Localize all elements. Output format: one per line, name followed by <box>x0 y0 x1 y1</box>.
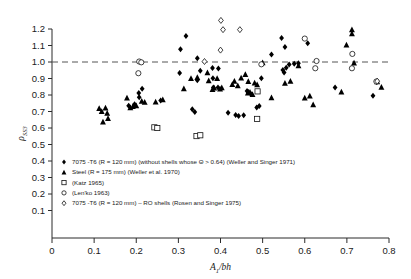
data-point <box>255 89 260 94</box>
data-point <box>237 27 242 33</box>
data-point <box>287 78 293 84</box>
data-point <box>136 71 141 76</box>
scatter-plot-figure: 0.10.20.30.40.50.60.70.80.91.01.11.200.1… <box>0 0 411 279</box>
y-axis-tick-label: 1.1 <box>32 40 45 51</box>
legend-marker-filled-diamond <box>62 160 66 165</box>
y-axis-tick-label: 0.5 <box>32 139 45 150</box>
data-point <box>242 71 248 77</box>
data-point <box>198 68 203 74</box>
legend-label: 7075 -T6 (R = 120 mm) (without shells wh… <box>72 158 295 165</box>
data-point <box>344 42 350 48</box>
data-point <box>195 55 200 61</box>
y-axis-tick-label: 0.8 <box>32 89 45 100</box>
data-series-0 <box>126 33 379 119</box>
data-point <box>313 66 318 71</box>
data-point <box>124 95 130 101</box>
data-point <box>202 59 207 65</box>
svg-text:ρSS3: ρSS3 <box>16 126 28 142</box>
x-axis-title: A1/bh <box>209 262 231 274</box>
x-axis-tick-label: 0.6 <box>298 245 311 256</box>
y-axis-tick-label: 0.1 <box>32 205 45 216</box>
data-point <box>349 26 355 32</box>
data-point <box>103 105 109 111</box>
data-point <box>198 133 203 138</box>
chart-canvas: 0.10.20.30.40.50.60.70.80.91.01.11.200.1… <box>0 0 411 279</box>
y-axis-tick-label: 0.2 <box>32 188 45 199</box>
data-point <box>255 116 260 121</box>
x-axis-tick-label: 0.1 <box>88 245 101 256</box>
data-point <box>314 58 319 63</box>
x-axis-tick-label: 0.7 <box>340 245 353 256</box>
data-point <box>259 75 264 81</box>
y-axis-tick-label: 1.0 <box>32 56 45 67</box>
data-point <box>104 110 110 116</box>
legend-marker-filled-triangle <box>62 170 67 175</box>
y-axis-tick-label: 0.6 <box>32 122 45 133</box>
data-point <box>371 93 376 99</box>
data-point <box>349 66 354 71</box>
data-point <box>269 52 274 58</box>
data-series-4 <box>202 17 380 84</box>
legend-label: (Katz 1965) <box>72 179 104 186</box>
data-point <box>351 60 357 66</box>
legend-label: Steel (R = 175 mm) (Weller et al. 1970) <box>72 168 180 175</box>
data-point <box>269 95 275 101</box>
data-point <box>100 119 106 125</box>
y-axis-tick-label: 0.7 <box>32 106 45 117</box>
data-point <box>279 35 284 41</box>
legend-marker-open-circle <box>62 191 66 195</box>
data-point <box>231 78 237 84</box>
data-point <box>137 94 142 100</box>
data-point <box>184 33 189 39</box>
data-point <box>105 115 111 121</box>
data-point <box>140 86 145 92</box>
data-point <box>219 17 224 23</box>
data-point <box>226 110 231 116</box>
data-point <box>378 84 384 90</box>
legend-label: (Len'ko 1963) <box>72 189 110 196</box>
data-point <box>221 27 226 33</box>
data-point <box>178 46 183 52</box>
data-point <box>283 44 288 50</box>
x-axis-tick-label: 0 <box>49 245 54 256</box>
data-point <box>282 80 288 86</box>
axis-lines <box>52 29 389 238</box>
data-point <box>259 62 264 67</box>
x-axis-tick-label: 0.3 <box>172 245 185 256</box>
legend-marker-open-square <box>62 180 66 184</box>
data-point <box>245 78 251 84</box>
data-point <box>204 70 210 76</box>
data-point <box>188 75 194 81</box>
y-axis-tick-label: 0.4 <box>32 155 45 166</box>
data-point <box>153 99 159 105</box>
data-point <box>302 95 308 101</box>
chart-legend: 7075 -T6 (R = 120 mm) (without shells wh… <box>62 158 296 206</box>
x-axis-tick-label: 0.2 <box>130 245 143 256</box>
data-point <box>333 84 338 90</box>
data-point <box>210 65 215 71</box>
data-point <box>181 86 187 92</box>
y-axis-tick-label: 0.3 <box>32 172 45 183</box>
data-point <box>338 89 344 95</box>
y-axis-title: ρSS3 <box>16 126 28 142</box>
y-axis-tick-label: 0.9 <box>32 73 45 84</box>
data-point <box>302 36 307 41</box>
legend-label: 7075 -T6 (R = 120 mm) – RO shells (Rosen… <box>72 199 241 206</box>
data-point <box>177 70 182 76</box>
data-point <box>241 112 246 118</box>
x-axis-tick-label: 0.8 <box>382 245 395 256</box>
legend-marker-open-diamond <box>62 201 66 206</box>
data-point <box>218 47 223 53</box>
x-axis-tick-label: 0.5 <box>256 245 269 256</box>
data-point <box>310 102 316 108</box>
data-point <box>307 93 313 99</box>
data-point <box>155 125 160 130</box>
data-point <box>139 60 144 65</box>
data-series-3 <box>136 36 379 84</box>
data-point <box>194 74 200 80</box>
x-axis-tick-label: 0.4 <box>214 245 227 256</box>
data-point <box>216 65 221 71</box>
y-axis-tick-label: 1.2 <box>32 23 45 34</box>
data-point <box>350 51 355 56</box>
